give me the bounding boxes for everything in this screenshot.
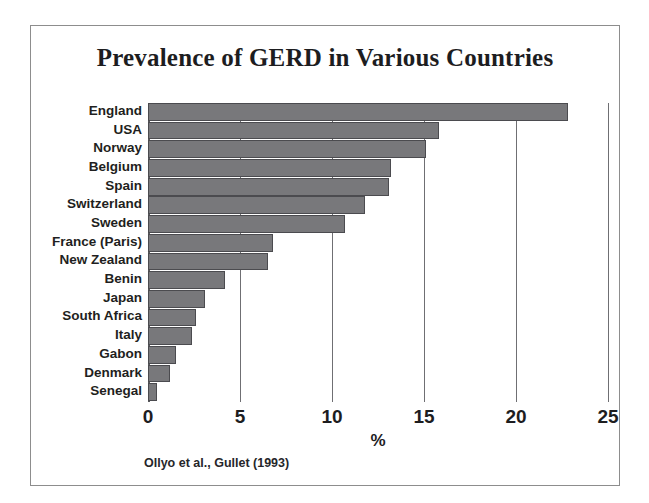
- bar-row: [148, 290, 608, 308]
- bar-norway[interactable]: [148, 140, 426, 158]
- category-label-benin: Benin: [26, 271, 142, 286]
- source-citation: Ollyo et al., Gullet (1993): [144, 456, 289, 470]
- bar-row: [148, 271, 608, 289]
- category-label-italy: Italy: [26, 327, 142, 342]
- category-label-france-paris: France (Paris): [26, 234, 142, 249]
- bar-row: [148, 103, 608, 121]
- bar-row: [148, 346, 608, 364]
- bar-row: [148, 196, 608, 214]
- bar-spain[interactable]: [148, 178, 389, 196]
- category-label-switzerland: Switzerland: [26, 196, 142, 211]
- bar-row: [148, 140, 608, 158]
- category-label-norway: Norway: [26, 140, 142, 155]
- bar-switzerland[interactable]: [148, 196, 365, 214]
- bar-benin[interactable]: [148, 271, 225, 289]
- category-label-senegal: Senegal: [26, 383, 142, 398]
- category-label-south-africa: South Africa: [26, 308, 142, 323]
- bar-south-africa[interactable]: [148, 309, 196, 327]
- plot-area: [148, 103, 608, 402]
- chart-title: Prevalence of GERD in Various Countries: [30, 44, 620, 72]
- gridline-25: [608, 103, 609, 402]
- bar-row: [148, 215, 608, 233]
- bar-row: [148, 122, 608, 140]
- x-tick-20: 20: [505, 406, 526, 428]
- x-axis-title: %: [148, 431, 608, 451]
- bar-japan[interactable]: [148, 290, 205, 308]
- bar-belgium[interactable]: [148, 159, 391, 177]
- bar-italy[interactable]: [148, 327, 192, 345]
- category-label-belgium: Belgium: [26, 159, 142, 174]
- bar-denmark[interactable]: [148, 365, 170, 383]
- category-label-usa: USA: [26, 122, 142, 137]
- bar-france-paris[interactable]: [148, 234, 273, 252]
- category-label-japan: Japan: [26, 290, 142, 305]
- bar-row: [148, 234, 608, 252]
- bar-row: [148, 253, 608, 271]
- bar-row: [148, 178, 608, 196]
- bar-row: [148, 383, 608, 401]
- bar-row: [148, 365, 608, 383]
- bar-senegal[interactable]: [148, 383, 157, 401]
- bar-row: [148, 327, 608, 345]
- category-label-new-zealand: New Zealand: [26, 252, 142, 267]
- x-tick-0: 0: [143, 406, 154, 428]
- category-label-denmark: Denmark: [26, 365, 142, 380]
- bar-england[interactable]: [148, 103, 568, 121]
- x-tick-10: 10: [321, 406, 342, 428]
- bar-gabon[interactable]: [148, 346, 176, 364]
- category-label-gabon: Gabon: [26, 346, 142, 361]
- bar-usa[interactable]: [148, 122, 439, 140]
- x-tick-15: 15: [413, 406, 434, 428]
- chart-figure: Prevalence of GERD in Various Countries …: [0, 0, 649, 503]
- x-axis-tick-labels: 0510152025: [148, 406, 608, 430]
- bar-row: [148, 309, 608, 327]
- bar-row: [148, 159, 608, 177]
- category-axis-labels: EnglandUSANorwayBelgiumSpainSwitzerlandS…: [24, 103, 142, 402]
- category-label-sweden: Sweden: [26, 215, 142, 230]
- bar-new-zealand[interactable]: [148, 253, 268, 271]
- x-tick-25: 25: [597, 406, 618, 428]
- bar-sweden[interactable]: [148, 215, 345, 233]
- category-label-spain: Spain: [26, 178, 142, 193]
- x-tick-5: 5: [235, 406, 246, 428]
- category-label-england: England: [26, 103, 142, 118]
